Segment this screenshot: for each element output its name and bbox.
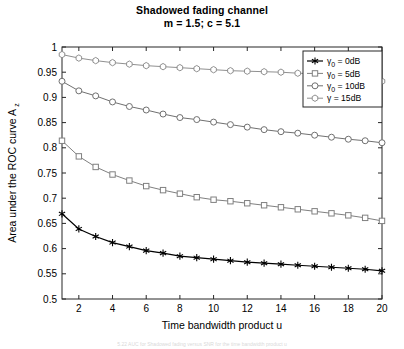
circle-marker <box>379 140 385 146</box>
circle-marker <box>76 88 82 94</box>
square-marker <box>110 172 115 177</box>
square-marker <box>144 183 149 188</box>
circle-marker <box>160 111 166 117</box>
circle-marker <box>312 132 318 138</box>
circle-marker <box>312 83 318 89</box>
circle-marker <box>93 93 99 99</box>
hexagon-marker <box>143 62 149 68</box>
square-marker <box>160 187 165 192</box>
series-line <box>62 214 382 271</box>
circle-marker <box>244 124 250 130</box>
hexagon-marker <box>228 67 234 73</box>
y-tick-label: 0.55 <box>38 268 58 279</box>
x-tick-label: 6 <box>143 303 149 314</box>
hexagon-marker <box>93 57 99 63</box>
square-marker <box>228 199 233 204</box>
series-1 <box>59 138 384 224</box>
hexagon-marker <box>110 59 116 65</box>
square-marker <box>59 138 64 143</box>
y-tick-label: 0.6 <box>43 243 57 254</box>
square-marker <box>312 71 317 76</box>
x-tick-label: 12 <box>242 303 254 314</box>
hexagon-marker <box>160 63 166 69</box>
y-tick-label: 0.95 <box>38 67 58 78</box>
y-tick-label: 0.75 <box>38 168 58 179</box>
x-tick-label: 10 <box>208 303 220 314</box>
square-marker <box>362 215 367 220</box>
hexagon-marker <box>278 69 284 75</box>
legend-label: γ = 15dB <box>327 93 361 103</box>
x-tick-label: 16 <box>309 303 321 314</box>
x-tick-label: 18 <box>343 303 355 314</box>
circle-marker <box>362 138 368 144</box>
figure-caption: 5.22 AUC for Shadowed fading versus SNR … <box>0 341 404 347</box>
circle-marker <box>345 136 351 142</box>
hexagon-marker <box>295 70 301 76</box>
square-marker <box>278 205 283 210</box>
hexagon-marker <box>127 61 133 67</box>
square-marker <box>76 154 81 159</box>
circle-marker <box>328 134 334 140</box>
circle-marker <box>227 122 233 128</box>
square-marker <box>211 197 216 202</box>
square-marker <box>379 218 384 223</box>
circle-marker <box>59 78 65 84</box>
square-marker <box>295 207 300 212</box>
series-line <box>62 141 382 221</box>
square-marker <box>329 211 334 216</box>
x-axis-label: Time bandwidth product u <box>162 319 283 331</box>
y-tick-label: 1 <box>51 42 57 53</box>
circle-marker <box>110 99 116 105</box>
circle-marker <box>261 127 267 133</box>
legend[interactable]: γ0 = 0dBγ0 = 5dBγ0 = 10dBγ = 15dB <box>303 51 382 107</box>
y-tick-label: 0.7 <box>43 193 57 204</box>
square-marker <box>346 213 351 218</box>
hexagon-marker <box>59 51 65 57</box>
circle-marker <box>211 119 217 125</box>
square-marker <box>245 201 250 206</box>
hexagon-marker <box>244 68 250 74</box>
circle-marker <box>194 117 200 123</box>
hexagon-marker <box>211 66 217 72</box>
square-marker <box>93 164 98 169</box>
y-tick-label: 0.8 <box>43 142 57 153</box>
hexagon-marker <box>177 64 183 70</box>
x-tick-label: 2 <box>76 303 82 314</box>
figure-container: Shadowed fading channel m = 1.5; c = 5.1… <box>0 0 404 349</box>
square-marker <box>127 178 132 183</box>
star-marker <box>93 233 99 240</box>
circle-marker <box>278 129 284 135</box>
x-tick-label: 8 <box>177 303 183 314</box>
hexagon-marker <box>261 69 267 75</box>
x-tick-label: 14 <box>275 303 287 314</box>
y-tick-label: 0.65 <box>38 218 58 229</box>
hexagon-marker <box>76 55 82 61</box>
circle-marker <box>143 107 149 113</box>
square-marker <box>261 203 266 208</box>
y-tick-label: 0.9 <box>43 92 57 103</box>
x-tick-label: 20 <box>376 303 388 314</box>
plot-svg: 2468101214161820Time bandwidth product u… <box>0 0 404 349</box>
hexagon-marker <box>194 65 200 71</box>
circle-marker <box>295 130 301 136</box>
y-tick-label: 0.5 <box>43 294 57 305</box>
series-0 <box>59 210 385 274</box>
x-tick-label: 4 <box>110 303 116 314</box>
square-marker <box>312 209 317 214</box>
circle-marker <box>177 115 183 121</box>
circle-marker <box>126 103 132 109</box>
y-tick-label: 0.85 <box>38 117 58 128</box>
square-marker <box>194 194 199 199</box>
hexagon-marker <box>312 95 318 101</box>
square-marker <box>177 191 182 196</box>
y-axis-label: Area under the ROC curve A z <box>6 103 20 243</box>
